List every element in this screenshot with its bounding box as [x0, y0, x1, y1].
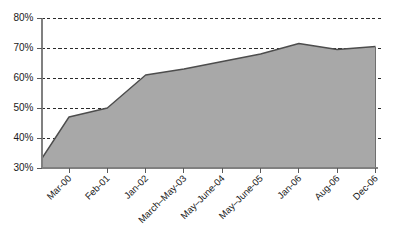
y-axis-label: 80% [13, 12, 33, 23]
y-axis-label: 30% [13, 162, 33, 173]
area-chart: 80%70%60%50%40%30% Mar-00Feb-01Jan-02Mar… [0, 0, 396, 246]
y-axis-label: 50% [13, 102, 33, 113]
y-axis-label: 60% [13, 72, 33, 83]
chart-canvas: 80%70%60%50%40%30% Mar-00Feb-01Jan-02Mar… [0, 0, 396, 246]
y-axis-label: 40% [13, 132, 33, 143]
y-axis-label: 70% [13, 42, 33, 53]
